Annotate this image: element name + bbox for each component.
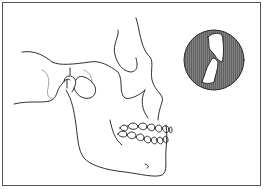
mental-foramen bbox=[145, 164, 148, 168]
articular-eminence bbox=[74, 76, 96, 98]
condyle bbox=[64, 76, 76, 92]
temporal-line bbox=[14, 79, 70, 104]
zygomatic-arch bbox=[22, 52, 145, 99]
coronoid bbox=[110, 120, 122, 145]
zygoma bbox=[142, 90, 148, 118]
nasal-bone bbox=[136, 18, 163, 120]
orbit bbox=[114, 30, 137, 72]
joint-marker bbox=[67, 68, 70, 88]
teeth bbox=[118, 123, 172, 144]
skull-illustration bbox=[0, 0, 265, 189]
mandible-ramus bbox=[66, 90, 167, 176]
